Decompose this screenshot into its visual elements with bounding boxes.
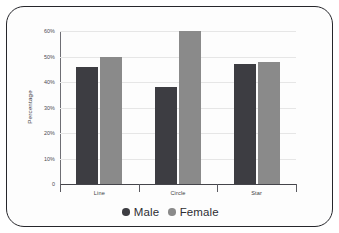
category-axis: LineCircleStar	[60, 184, 296, 202]
y-axis-tick-label: 50%	[44, 54, 55, 60]
bar-group	[139, 31, 218, 184]
category-cell: Line	[60, 184, 139, 202]
x-axis-category-label: Circle	[170, 190, 185, 196]
category-divider	[60, 184, 61, 192]
bar-star-female[interactable]	[258, 62, 280, 184]
x-axis-category-label: Line	[94, 190, 105, 196]
y-axis-tick-label: 30%	[44, 105, 55, 111]
y-axis-tick-label: 0	[52, 181, 55, 187]
y-axis-tick-label: 40%	[44, 79, 55, 85]
bar-line-male[interactable]	[76, 67, 98, 184]
y-axis-tick-label: 10%	[44, 156, 55, 162]
y-axis-tick-label: 20%	[44, 130, 55, 136]
x-axis-category-label: Star	[251, 190, 262, 196]
circle-dot-icon	[168, 208, 176, 216]
y-axis-tick-label: 60%	[44, 28, 55, 34]
bar-line-female[interactable]	[100, 57, 122, 185]
legend-label: Female	[180, 206, 219, 218]
bar-circle-male[interactable]	[155, 87, 177, 184]
bar-group	[60, 31, 139, 184]
category-divider	[296, 184, 297, 192]
bar-star-male[interactable]	[234, 64, 256, 184]
category-divider	[217, 184, 218, 192]
chart-card: Percentage 60%50%40%30%20%10%0 LineCircl…	[6, 6, 333, 227]
circle-dot-icon	[122, 208, 130, 216]
legend-item-male[interactable]: Male	[122, 206, 159, 218]
category-cell: Star	[217, 184, 296, 202]
plot-area: 60%50%40%30%20%10%0	[60, 31, 296, 184]
y-axis-title: Percentage	[26, 90, 33, 124]
legend-label: Male	[134, 206, 159, 218]
chart-legend: Male Female	[7, 206, 333, 218]
category-divider	[139, 184, 140, 192]
bar-circle-female[interactable]	[179, 31, 201, 184]
category-cell: Circle	[139, 184, 218, 202]
legend-item-female[interactable]: Female	[168, 206, 218, 218]
bar-group	[217, 31, 296, 184]
